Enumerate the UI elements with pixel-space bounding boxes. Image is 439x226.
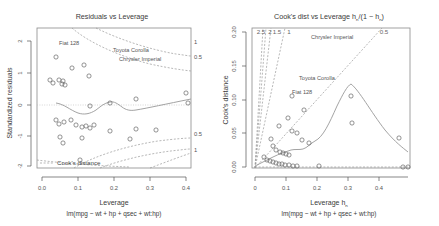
left-legend: Cook's distance [40,159,101,166]
svg-text:Cook's dist vs Leverage hn/(1: Cook's dist vs Leverage hn/(1 − hn) [274,12,384,22]
right-contour-label-3: 1 [287,28,291,35]
right-plot-frame [252,28,410,168]
left-xtick-3: 0.3 [146,185,154,191]
left-xtick-2: 0.2 [110,185,118,191]
right-title-main: Cook's dist vs Leverage h [274,12,356,21]
left-xaxis-label: Leverage [99,199,128,207]
left-x-axis: 0.0 0.1 0.2 0.3 0.4 [38,177,191,191]
left-point-label-chrysler-imperial: Chrysler Imperial [119,56,161,62]
right-cooks-contour-rays [255,28,408,168]
left-point-label-fiat-128: Fiat 128 [59,40,79,46]
right-subtitle: lm(mpg ~ wt + hp + qsec + wt:hp) [282,210,377,218]
right-xtick-4: 0.4 [375,185,384,191]
left-ytick-4: -2 [17,163,23,168]
figure-root: Residuals vs Leverage [0,0,439,226]
right-plot-title: Cook's dist vs Leverage hn/(1 − hn) [274,12,384,22]
left-legend-label: Cook's distance [57,159,101,166]
right-contour-label-2: 1.5 [273,28,282,35]
left-ytick-0: 2 [17,39,23,42]
right-title-mid: /(1 − h [359,12,380,21]
right-xtick-3: 0.3 [344,185,352,191]
left-xtick-0: 0.0 [38,185,46,191]
left-xtick-1: 0.1 [74,185,82,191]
plot-residuals-vs-leverage: Residuals vs Leverage [0,0,219,226]
right-ytick-1: 0.05 [231,127,237,138]
right-loess-smooth-line [255,84,408,166]
right-contour-label-4: 0.5 [380,28,389,35]
left-loess-smooth-line [56,99,191,114]
right-ytick-2: 0.10 [231,94,237,105]
right-xaxis-label: Leverage hn [310,199,348,208]
right-contour-label-0: 2.5 [257,28,266,35]
right-xtick-0: 0 [253,185,256,191]
right-title-end: ) [382,12,384,21]
left-right-contour-labels: 1 0.5 0.5 1 [194,39,202,153]
left-ytick-3: -1 [17,133,23,138]
right-xtick-2: 0.2 [313,185,321,191]
right-ytick-3: 0.15 [231,60,237,71]
left-point-label-toyota-corolla: Toyota Corolla [113,47,150,53]
left-ytick-2: 0 [17,103,23,106]
right-yaxis-label: Cook's distance [222,75,229,124]
left-y-axis: 2 1 0 -1 -2 [17,39,31,168]
right-data-points [262,94,410,169]
right-point-label-toyota-corolla: Toyota Corolla [299,75,336,81]
left-contour-label-1: 0.5 [194,54,202,60]
right-contour-label-1: 2 [268,28,272,35]
right-ytick-4: 0.20 [231,26,237,37]
left-xtick-4: 0.4 [182,185,191,191]
left-ytick-1: 1 [17,71,23,74]
plot-cooks-dist-vs-leverage: Cook's dist vs Leverage hn/(1 − hn) [219,0,439,226]
right-xlabel-sub: n [345,203,348,208]
right-ytick-0: 0.00 [231,161,237,172]
left-contour-label-2: 0.5 [194,131,202,137]
left-yaxis-label: Standardized residuals [6,67,13,139]
right-xlabel-main: Leverage h [310,199,345,207]
left-contour-label-3: 1 [194,147,197,153]
right-xtick-1: 0.1 [282,185,290,191]
right-x-axis: 0 0.1 0.2 0.3 0.4 [253,177,408,191]
left-plot-title: Residuals vs Leverage [76,12,149,21]
svg-text:Leverage hn: Leverage hn [310,199,348,208]
left-contour-label-0: 1 [194,39,197,45]
right-point-label-fiat-128: Fiat 128 [292,89,312,95]
left-subtitle: lm(mpg ~ wt + hp + qsec + wt:hp) [67,210,162,218]
right-y-axis: 0.00 0.05 0.10 0.15 0.20 [231,26,246,172]
right-point-label-chrysler-imperial: Chrysler Imperial [311,34,353,40]
